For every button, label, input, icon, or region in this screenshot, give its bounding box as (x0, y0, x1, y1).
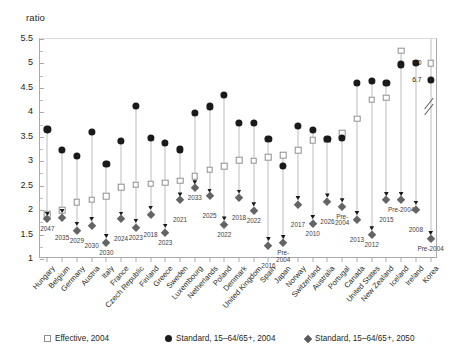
marker-effective-2004[interactable] (295, 147, 302, 154)
marker-standard-2050[interactable] (308, 220, 317, 229)
legend-item-standard-2050: Standard, 15–64/65+, 2050 (305, 334, 414, 343)
marker-standard-2004[interactable] (250, 119, 257, 126)
y-axis-tick-label: 4 (0, 106, 39, 116)
marker-standard-2004[interactable] (221, 92, 228, 99)
marker-standard-2050[interactable] (367, 231, 376, 240)
y-axis-tick-label: 2.5 (0, 180, 39, 190)
marker-effective-2004[interactable] (74, 199, 81, 206)
marker-standard-2050[interactable] (220, 220, 229, 229)
chart-legend: Effective, 2004 Standard, 15–64/65+, 200… (0, 334, 456, 354)
marker-effective-2004[interactable] (280, 152, 287, 159)
connector-stem (91, 132, 92, 226)
marker-standard-2050[interactable] (176, 195, 185, 204)
marker-effective-2004[interactable] (398, 47, 405, 54)
marker-standard-2050[interactable] (279, 239, 288, 248)
connector-stem (180, 149, 181, 199)
marker-standard-2050[interactable] (382, 195, 391, 204)
marker-effective-2004[interactable] (236, 157, 243, 164)
x-axis-tick (327, 257, 328, 262)
marker-standard-2004[interactable] (191, 110, 198, 117)
marker-standard-2050[interactable] (131, 224, 140, 233)
marker-effective-2004[interactable] (221, 163, 228, 170)
marker-standard-2004[interactable] (398, 61, 405, 68)
marker-standard-2004[interactable] (383, 79, 390, 86)
marker-standard-2004[interactable] (162, 140, 169, 147)
marker-effective-2004[interactable] (88, 197, 95, 204)
y-axis-tick-label: 5 (0, 57, 39, 67)
marker-standard-2050[interactable] (190, 184, 199, 193)
y-axis-tick-label: 1.5 (0, 229, 39, 239)
marker-effective-2004[interactable] (250, 157, 257, 164)
marker-standard-2004[interactable] (103, 160, 110, 167)
marker-standard-2050[interactable] (293, 201, 302, 210)
marker-standard-2004[interactable] (206, 103, 213, 110)
marker-standard-2050[interactable] (117, 214, 126, 223)
marker-whisker (104, 234, 109, 238)
marker-standard-2050[interactable] (146, 210, 155, 219)
crossover-year-label: 2022 (217, 232, 231, 239)
crossover-year-label: 2033 (188, 195, 202, 202)
marker-standard-2004[interactable] (235, 119, 242, 126)
marker-effective-2004[interactable] (309, 137, 316, 144)
crossover-year-label: 2026 (320, 219, 334, 226)
marker-effective-2004[interactable] (427, 60, 434, 67)
marker-standard-2050[interactable] (323, 197, 332, 206)
marker-effective-2004[interactable] (118, 184, 125, 191)
marker-standard-2004[interactable] (73, 152, 80, 159)
marker-standard-2050[interactable] (264, 241, 273, 250)
crossover-year-label: 2018 (143, 232, 157, 239)
marker-standard-2050[interactable] (161, 228, 170, 237)
marker-effective-2004[interactable] (147, 180, 154, 187)
y-axis-minor-tick (40, 125, 43, 126)
marker-standard-2004[interactable] (132, 102, 139, 109)
marker-standard-2004[interactable] (44, 126, 51, 133)
legend-label: Effective, 2004 (55, 334, 109, 343)
marker-standard-2050[interactable] (87, 222, 96, 231)
marker-standard-2004[interactable] (309, 126, 316, 133)
marker-standard-2004[interactable] (88, 128, 95, 135)
marker-standard-2004[interactable] (339, 135, 346, 142)
plot-area: 2047203520292030203020242023201820232021… (39, 38, 437, 258)
connector-stem (356, 83, 357, 220)
x-axis-tick (239, 257, 240, 262)
marker-standard-2004[interactable] (368, 77, 375, 84)
marker-standard-2050[interactable] (234, 193, 243, 202)
marker-standard-2004[interactable] (294, 122, 301, 129)
marker-effective-2004[interactable] (103, 193, 110, 200)
chart-root: ratio 2047203520292030203020242023201820… (0, 0, 456, 360)
connector-stem (415, 63, 416, 210)
marker-standard-2004[interactable] (117, 137, 124, 144)
marker-standard-2004[interactable] (59, 146, 66, 153)
marker-standard-2004[interactable] (147, 135, 154, 142)
marker-effective-2004[interactable] (354, 115, 361, 122)
marker-effective-2004[interactable] (162, 179, 169, 186)
crossover-year-label: 2015 (379, 217, 393, 224)
marker-effective-2004[interactable] (265, 154, 272, 161)
marker-standard-2050[interactable] (72, 226, 81, 235)
marker-standard-2050[interactable] (338, 202, 347, 211)
marker-effective-2004[interactable] (191, 173, 198, 180)
marker-standard-2050[interactable] (397, 195, 406, 204)
crossover-year-label: 2047 (40, 226, 54, 233)
marker-standard-2004[interactable] (265, 135, 272, 142)
marker-effective-2004[interactable] (368, 96, 375, 103)
marker-effective-2004[interactable] (383, 94, 390, 101)
y-axis-tick-mark (40, 39, 44, 40)
marker-standard-2004[interactable] (353, 79, 360, 86)
connector-stem (253, 123, 254, 211)
marker-standard-2050[interactable] (205, 191, 214, 200)
marker-standard-2050[interactable] (426, 235, 435, 244)
marker-standard-2004[interactable] (176, 146, 183, 153)
marker-effective-2004[interactable] (177, 177, 184, 184)
marker-standard-2004[interactable] (427, 76, 434, 83)
crossover-year-label: 2012 (365, 242, 379, 249)
marker-standard-2050[interactable] (102, 239, 111, 248)
marker-effective-2004[interactable] (206, 166, 213, 173)
y-axis-tick-mark (40, 161, 44, 162)
marker-standard-2050[interactable] (352, 216, 361, 225)
marker-effective-2004[interactable] (133, 181, 140, 188)
marker-standard-2004[interactable] (280, 162, 287, 169)
connector-stem (106, 164, 107, 244)
marker-standard-2050[interactable] (58, 214, 67, 223)
marker-standard-2050[interactable] (249, 207, 258, 216)
